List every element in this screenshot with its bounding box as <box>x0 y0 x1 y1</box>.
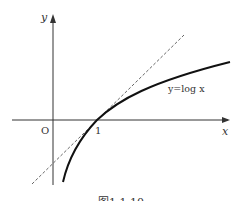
log-curve <box>63 62 230 182</box>
log-diagram: y x O 1 y=log x 图1.1.10 <box>0 0 242 201</box>
curve-label: y=log x <box>167 83 205 94</box>
y-axis <box>50 14 56 185</box>
origin-label: O <box>41 125 49 136</box>
tick-label-one: 1 <box>95 125 101 136</box>
y-axis-label: y <box>40 11 48 24</box>
x-axis-label: x <box>222 125 229 138</box>
figure-caption: 图1.1.10 <box>98 196 144 201</box>
x-axis <box>12 117 230 123</box>
